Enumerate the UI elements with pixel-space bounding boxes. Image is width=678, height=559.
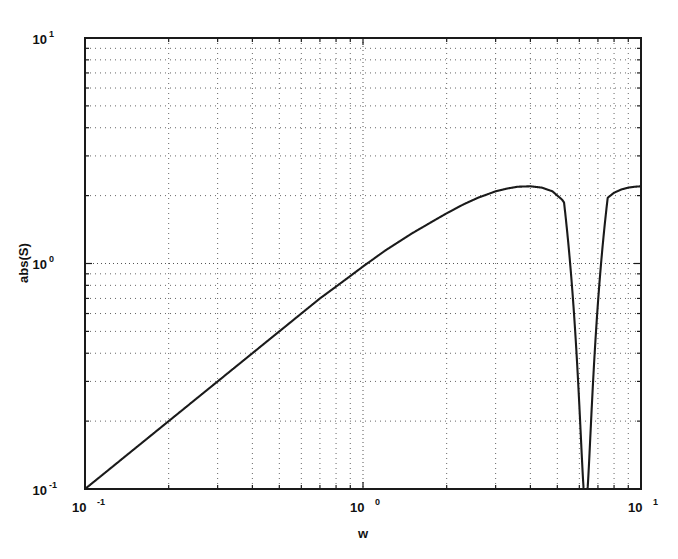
x-tick-exponent-1: 0 (375, 497, 380, 507)
loglog-plot: 10 -1 10 0 10 1 10 1 10 0 10 -1 w abs(S) (0, 0, 678, 559)
y-tick-label-bottom: 10 -1 (33, 480, 57, 498)
x-tick-label-0: 10 -1 (72, 497, 105, 515)
x-tick-mantissa-2: 10 (628, 500, 642, 515)
x-tick-mantissa-1: 10 (350, 500, 364, 515)
x-axis-title: w (357, 526, 369, 541)
y-tick-mantissa-0: 10 (33, 483, 47, 498)
x-tick-mantissa-0: 10 (72, 500, 86, 515)
y-tick-exponent-0: -1 (49, 480, 57, 490)
y-tick-exponent-2: 1 (49, 29, 54, 39)
y-tick-mantissa-2: 10 (33, 32, 47, 47)
y-tick-label-top: 10 1 (33, 29, 54, 47)
y-axis-title: abs(S) (16, 243, 31, 283)
x-tick-label-1: 10 0 (350, 497, 380, 515)
figure-canvas: 10 -1 10 0 10 1 10 1 10 0 10 -1 w abs(S) (0, 0, 678, 559)
y-tick-mantissa-1: 10 (33, 257, 47, 272)
y-tick-label-mid: 10 0 (33, 254, 54, 272)
x-tick-exponent-0: -1 (97, 497, 105, 507)
x-tick-exponent-2: 1 (653, 497, 658, 507)
x-tick-label-2: 10 1 (628, 497, 658, 515)
y-tick-exponent-1: 0 (49, 254, 54, 264)
